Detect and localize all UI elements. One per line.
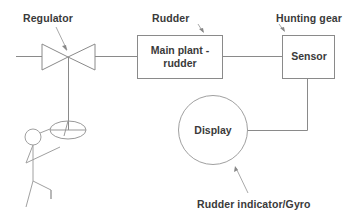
diagram-canvas: [0, 0, 356, 216]
main-plant-text: Main plant - rudder: [138, 44, 222, 70]
main-plant-line1: Main plant -: [138, 44, 222, 57]
rudder-label: Rudder: [152, 12, 189, 24]
display-text: Display: [178, 124, 248, 137]
rudder-indicator-label: Rudder indicator/Gyro: [197, 198, 311, 210]
regulator-label: Regulator: [23, 12, 73, 24]
hunting-gear-label: Hunting gear: [276, 12, 342, 24]
operator-figure-icon: [25, 129, 60, 207]
sensor-to-display-line: [247, 78, 308, 131]
arrowhead-hunting-gear: [280, 27, 285, 32]
main-plant-line2: rudder: [138, 57, 222, 70]
arrowhead-rudder: [199, 28, 204, 33]
arrowhead-regulator: [62, 45, 67, 51]
sensor-text: Sensor: [283, 50, 335, 63]
